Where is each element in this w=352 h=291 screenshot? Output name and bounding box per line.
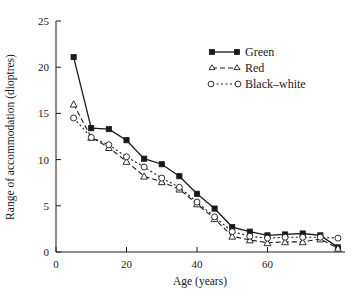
data-point-open-circle: [159, 175, 165, 181]
data-point-open-circle: [335, 235, 341, 241]
y-tick-label-20: 20: [38, 61, 50, 73]
x-tick-label-20: 20: [121, 258, 133, 270]
data-point-open-circle: [229, 229, 235, 235]
data-point-open-triangle: [70, 101, 77, 107]
data-point-open-circle: [317, 234, 323, 240]
legend-marker-open-triangle: [234, 65, 240, 70]
data-point-open-circle: [264, 235, 270, 241]
x-tick-label-40: 40: [192, 258, 204, 270]
x-tick-label-0: 0: [53, 258, 59, 270]
chart-legend: Green Red Black–white: [208, 45, 306, 91]
series-black-white: [71, 115, 341, 241]
data-point-filled-square: [124, 138, 129, 143]
chart-canvas: 0 5 10 15 20 25 0 20 40 60 Age (years) R…: [0, 0, 352, 291]
data-point-open-circle: [141, 164, 147, 170]
y-axis-ticks: 0 5 10 15 20 25: [38, 15, 61, 258]
accommodation-vs-age-chart: 0 5 10 15 20 25 0 20 40 60 Age (years) R…: [0, 0, 352, 291]
x-axis-title: Age (years): [173, 275, 227, 288]
axes-group: [56, 21, 345, 252]
legend-label-red: Red: [245, 61, 264, 75]
series-red: [70, 101, 341, 251]
data-point-open-circle: [247, 233, 253, 239]
data-point-filled-square: [142, 156, 147, 161]
data-point-open-circle: [212, 214, 218, 220]
data-point-filled-square: [177, 174, 182, 179]
y-tick-label-0: 0: [44, 246, 50, 258]
data-point-filled-square: [159, 162, 164, 167]
data-point-open-circle: [106, 142, 112, 148]
legend-entry-green: Green: [210, 45, 275, 59]
legend-label-green: Green: [245, 45, 274, 59]
legend-marker-filled-square: [235, 50, 240, 55]
legend-marker-filled-square: [210, 50, 215, 55]
series-line: [74, 118, 338, 238]
legend-entry-black-white: Black–white: [208, 77, 306, 91]
x-axis-ticks: 0 20 40 60: [53, 247, 273, 270]
data-point-filled-square: [106, 127, 111, 132]
data-point-open-circle: [300, 234, 306, 240]
data-point-open-circle: [123, 154, 129, 160]
legend-marker-open-circle: [208, 81, 214, 87]
data-point-open-circle: [194, 199, 200, 205]
legend-entry-red: Red: [209, 61, 264, 75]
series-line: [74, 104, 338, 248]
data-point-filled-square: [194, 191, 199, 196]
data-point-filled-square: [89, 126, 94, 131]
y-tick-label-15: 15: [38, 107, 50, 119]
data-point-open-circle: [71, 115, 77, 121]
data-point-open-circle: [176, 184, 182, 190]
legend-marker-open-circle: [235, 81, 241, 87]
data-point-filled-square: [71, 54, 76, 59]
y-tick-label-5: 5: [44, 200, 50, 212]
y-tick-label-10: 10: [38, 154, 50, 166]
data-point-open-circle: [282, 234, 288, 240]
y-tick-label-25: 25: [38, 15, 50, 27]
x-tick-label-60: 60: [262, 258, 274, 270]
data-point-filled-square: [212, 206, 217, 211]
data-point-open-circle: [88, 134, 94, 140]
y-axis-title: Range of accommodation (dioptres): [4, 54, 17, 220]
legend-label-black-white: Black–white: [245, 77, 306, 91]
legend-marker-open-triangle: [209, 65, 215, 70]
